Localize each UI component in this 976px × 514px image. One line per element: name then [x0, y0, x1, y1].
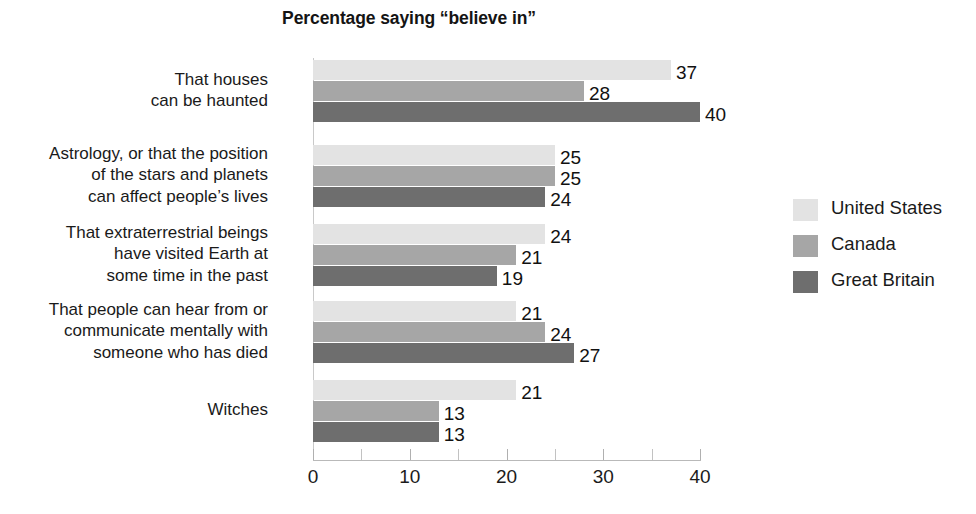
x-tick-0: [313, 449, 314, 460]
chart-title-text: Percentage saying “believe in”: [282, 8, 536, 28]
category-label-0: That houses can be haunted: [151, 69, 268, 112]
x-tick-35: [652, 449, 653, 460]
x-tick-label-40: 40: [670, 466, 730, 488]
bar-2-2: [313, 266, 497, 286]
x-tick-25: [555, 449, 556, 460]
bar-1-0: [313, 145, 555, 165]
category-label-2: That extraterrestrial beings have visite…: [66, 222, 268, 287]
bar-value-4-2: 13: [444, 424, 465, 446]
x-tick-5: [361, 449, 362, 460]
bar-3-1: [313, 322, 545, 342]
legend-swatch-icon-0: [793, 199, 818, 221]
legend-label-2: Great Britain: [831, 269, 935, 291]
bar-value-3-2: 27: [579, 345, 600, 367]
chart-title: Percentage saying “believe in”: [0, 8, 976, 29]
bar-value-2-1: 21: [521, 247, 542, 269]
bar-value-2-0: 24: [550, 226, 571, 248]
bar-3-2: [313, 343, 574, 363]
bar-value-4-1: 13: [444, 403, 465, 425]
x-tick-label-10: 10: [380, 466, 440, 488]
bottom-caption-crop: [0, 503, 976, 514]
x-axis-line: [313, 460, 701, 461]
x-tick-15: [458, 449, 459, 460]
bar-0-1: [313, 81, 584, 101]
bar-3-0: [313, 301, 516, 321]
bar-value-1-1: 25: [560, 168, 581, 190]
legend-label-1: Canada: [831, 233, 896, 255]
x-tick-20: [507, 449, 508, 460]
bar-2-1: [313, 245, 516, 265]
bar-1-1: [313, 166, 555, 186]
x-tick-30: [603, 449, 604, 460]
x-tick-40: [700, 449, 701, 460]
bar-0-2: [313, 102, 700, 122]
bar-1-2: [313, 187, 545, 207]
bar-4-2: [313, 422, 439, 442]
category-label-4: Witches: [208, 399, 268, 421]
bar-0-0: [313, 60, 671, 80]
bar-4-0: [313, 380, 516, 400]
legend-label-0: United States: [831, 197, 942, 219]
bar-value-2-2: 19: [502, 268, 523, 290]
category-label-3: That people can hear from or communicate…: [49, 299, 268, 364]
bar-value-0-2: 40: [705, 104, 726, 126]
legend-swatch-icon-2: [793, 271, 818, 293]
bar-chart: Percentage saying “believe in” 010203040…: [0, 0, 976, 514]
x-tick-label-30: 30: [573, 466, 633, 488]
bar-value-1-2: 24: [550, 189, 571, 211]
bar-value-1-0: 25: [560, 147, 581, 169]
bar-4-1: [313, 401, 439, 421]
x-tick-10: [410, 449, 411, 460]
bar-value-0-0: 37: [676, 62, 697, 84]
legend-swatch-icon-1: [793, 235, 818, 257]
category-label-1: Astrology, or that the position of the s…: [49, 143, 268, 208]
x-tick-label-20: 20: [477, 466, 537, 488]
bar-2-0: [313, 224, 545, 244]
x-tick-label-0: 0: [283, 466, 343, 488]
bar-value-4-0: 21: [521, 382, 542, 404]
